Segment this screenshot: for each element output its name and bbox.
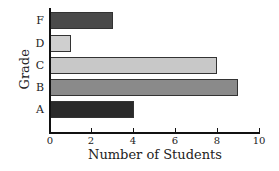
- bar-f: [50, 12, 113, 29]
- y-tick-label-b: B: [34, 79, 46, 96]
- x-tick-label: 0: [40, 135, 60, 146]
- bar-a: [50, 101, 134, 118]
- y-tick-label-d: D: [34, 35, 46, 52]
- x-tick-label: 8: [207, 135, 227, 146]
- y-tick-label-c: C: [34, 57, 46, 74]
- x-axis-title: Number of Students: [50, 147, 260, 162]
- y-tick-label-a: A: [34, 101, 46, 118]
- y-axis-title: Grade: [17, 50, 32, 90]
- x-tick-label: 4: [123, 135, 143, 146]
- bar-d: [50, 35, 71, 52]
- x-axis: [49, 132, 260, 134]
- grade-bar-chart: Grade F D C B A 0 2 4 6 8 10 Number of S…: [0, 0, 279, 171]
- x-tick-label: 10: [249, 135, 269, 146]
- x-tick: [175, 128, 176, 133]
- x-tick: [133, 128, 134, 133]
- x-tick-label: 2: [81, 135, 101, 146]
- bar-b: [50, 79, 238, 96]
- x-tick: [217, 128, 218, 133]
- x-tick: [50, 128, 51, 133]
- x-tick: [259, 128, 260, 133]
- bar-c: [50, 57, 217, 74]
- y-tick-label-f: F: [34, 12, 46, 29]
- x-tick: [91, 128, 92, 133]
- y-axis: [49, 8, 51, 133]
- x-tick-label: 6: [165, 135, 185, 146]
